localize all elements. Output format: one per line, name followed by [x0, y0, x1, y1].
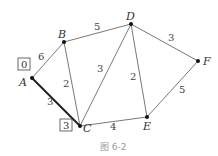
node-label-B: B [57, 28, 66, 41]
edge-weight-AC: 3 [47, 96, 53, 107]
node-label-D: D [125, 10, 135, 23]
node-A [30, 76, 34, 80]
edges: 632532435 [32, 21, 198, 132]
node-label-E: E [142, 120, 151, 133]
edge-weight-BC: 2 [63, 78, 69, 89]
edge-DF [131, 24, 198, 61]
edge-weight-BD: 5 [94, 21, 100, 32]
edge-AC [32, 78, 80, 126]
edge-weight-AB: 6 [38, 51, 44, 62]
figure-caption: 图 6-2 [100, 142, 127, 152]
node-label-A: A [18, 76, 27, 89]
graph-diagram: 632532435 ABCDEF 03 图 6-2 [0, 0, 218, 156]
node-F [196, 59, 200, 63]
edge-weight-CD: 3 [97, 63, 103, 74]
distance-value-C: 3 [63, 120, 69, 131]
node-label-F: F [202, 55, 211, 68]
node-E [145, 115, 149, 119]
node-C [78, 124, 82, 128]
edge-weight-DF: 3 [168, 32, 174, 43]
edge-weight-EF: 5 [179, 84, 185, 95]
node-label-C: C [83, 122, 92, 135]
edge-weight-DE: 2 [130, 71, 136, 82]
edge-CD [80, 24, 131, 126]
distance-boxes: 03 [18, 58, 72, 131]
edge-weight-CE: 4 [110, 121, 116, 132]
edge-AB [32, 42, 64, 78]
distance-value-A: 0 [21, 59, 27, 70]
edge-EF [147, 61, 198, 117]
